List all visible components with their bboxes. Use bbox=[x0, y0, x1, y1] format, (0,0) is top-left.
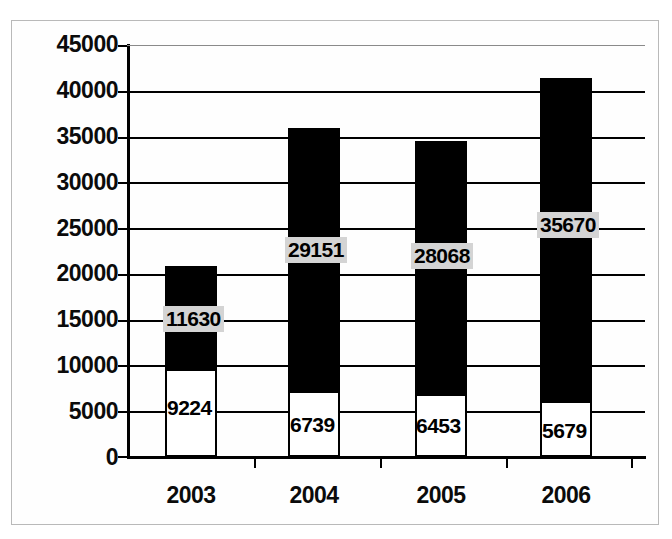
data-label-upper-2005: 28068 bbox=[411, 243, 473, 269]
x-axis-tick bbox=[380, 457, 382, 468]
gridline-45000 bbox=[127, 45, 645, 46]
x-axis-tick bbox=[254, 457, 256, 468]
x-axis-label-2003: 2003 bbox=[136, 484, 246, 507]
chart-screenshot: 45000 40000 35000 30000 25000 20000 1500… bbox=[0, 0, 672, 539]
bar-2003[interactable] bbox=[165, 266, 217, 457]
x-axis-tick bbox=[631, 457, 633, 468]
x-axis-label-2005: 2005 bbox=[386, 484, 496, 507]
data-label-lower-2005: 6453 bbox=[413, 413, 464, 439]
data-label-upper-2003: 11630 bbox=[163, 306, 224, 332]
x-axis-label-2006: 2006 bbox=[511, 484, 621, 507]
y-axis-tick-label: 25000 bbox=[8, 217, 118, 240]
data-label-lower-2006: 5679 bbox=[539, 418, 590, 444]
y-axis-tick-label: 0 bbox=[8, 446, 118, 469]
x-axis-tick bbox=[506, 457, 508, 468]
bar-2006[interactable] bbox=[540, 78, 592, 457]
y-axis-tick-label: 45000 bbox=[8, 33, 118, 56]
bar-segment-upper-2004 bbox=[290, 130, 338, 397]
y-axis-tick-label: 15000 bbox=[8, 308, 118, 331]
bar-segment-upper-2006 bbox=[542, 80, 590, 407]
y-axis-tick-label: 40000 bbox=[8, 79, 118, 102]
y-axis-tick-label: 10000 bbox=[8, 354, 118, 377]
data-label-upper-2006: 35670 bbox=[537, 212, 599, 238]
y-axis-tick-label: 5000 bbox=[8, 400, 118, 423]
x-axis-label-2004: 2004 bbox=[259, 484, 369, 507]
y-axis-tick-label: 30000 bbox=[8, 171, 118, 194]
bar-2004[interactable] bbox=[288, 128, 340, 457]
data-label-upper-2004: 29151 bbox=[285, 237, 347, 263]
data-label-lower-2003: 9224 bbox=[164, 395, 215, 421]
data-label-lower-2004: 6739 bbox=[287, 412, 338, 438]
y-axis-tick-label: 20000 bbox=[8, 262, 118, 285]
bar-segment-upper-2005 bbox=[417, 143, 465, 400]
bar-2005[interactable] bbox=[415, 141, 467, 457]
y-axis-tick-label: 35000 bbox=[8, 125, 118, 148]
